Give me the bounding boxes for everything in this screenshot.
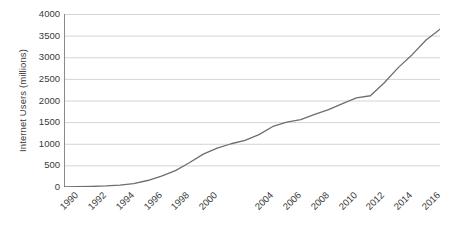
line-chart: Internet Users (millions) 05001000150020… — [0, 0, 456, 226]
x-axis-tick-labels: 1990199219941996199820002004200620082010… — [0, 0, 456, 226]
